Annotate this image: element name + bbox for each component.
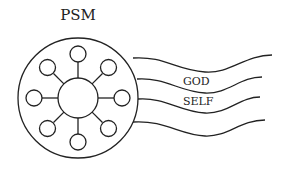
hub-circle — [58, 78, 98, 118]
satellite-bottom-right — [101, 121, 117, 137]
satellite-circles — [26, 46, 130, 150]
satellite-top-right — [101, 60, 117, 76]
satellite-bottom — [70, 134, 86, 150]
satellite-top-left — [40, 60, 56, 76]
wave-line-4 — [133, 120, 265, 136]
satellite-right — [114, 90, 130, 106]
label-god: GOD — [183, 75, 210, 88]
satellite-top — [70, 46, 86, 62]
psm-diagram: GOD SELF — [0, 0, 285, 175]
label-self: SELF — [183, 95, 214, 108]
outer-circle — [18, 38, 138, 158]
satellite-bottom-left — [40, 121, 56, 137]
wave-line-1 — [133, 55, 272, 72]
satellite-left — [26, 90, 42, 106]
